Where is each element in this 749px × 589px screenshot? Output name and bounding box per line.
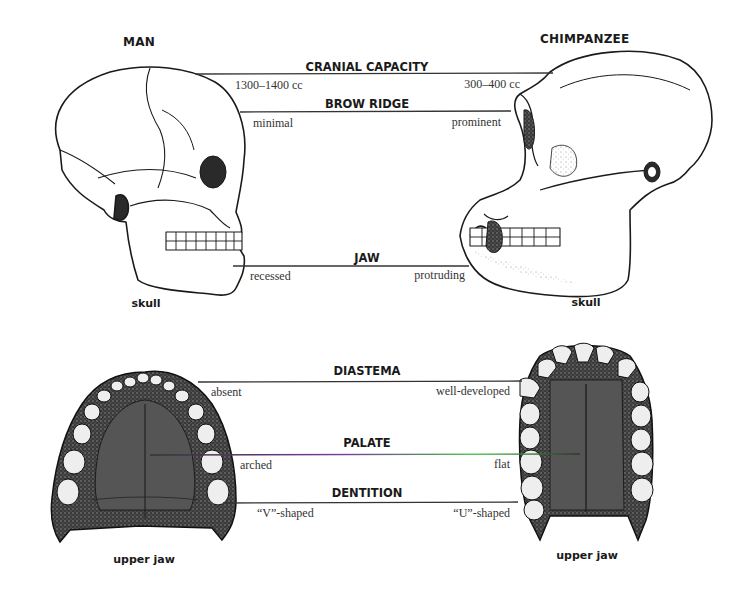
feature-brow-ridge: BROW RIDGE — [325, 97, 409, 111]
human-upper-jaw-drawing — [51, 371, 236, 542]
chimp-jaw-caption: upper jaw — [556, 549, 618, 562]
chimp-diastema-value: well-developed — [436, 384, 510, 399]
man-skull-caption: skull — [131, 297, 160, 310]
feature-palate: PALATE — [343, 436, 390, 450]
feature-dentition: DENTITION — [332, 486, 403, 500]
brow-ridge-line — [240, 111, 511, 112]
chimp-brow-ridge-value: prominent — [452, 115, 501, 130]
man-palate-value: arched — [240, 458, 272, 473]
chimp-dentition-value: “U”-shaped — [453, 506, 510, 521]
man-diastema-value: absent — [211, 385, 242, 400]
man-brow-ridge-value: minimal — [253, 116, 293, 131]
chimpanzee-upper-jaw-drawing — [519, 343, 653, 540]
chimp-palate-value: flat — [494, 457, 510, 472]
dentition-line — [223, 502, 518, 503]
feature-diastema: DIASTEMA — [333, 364, 400, 378]
man-jaw-value: recessed — [250, 269, 291, 284]
human-skull-drawing — [56, 67, 245, 295]
feature-jaw: JAW — [354, 251, 379, 265]
chimp-skull-caption: skull — [571, 296, 600, 309]
chimpanzee-title: CHIMPANZEE — [540, 32, 629, 46]
man-cranial-capacity-value: 1300–1400 cc — [235, 78, 303, 93]
chimp-jaw-value: protruding — [414, 268, 465, 283]
comparison-diagram: MAN CHIMPANZEE CRANIAL CAPACITY 1300–140… — [0, 0, 749, 589]
man-jaw-caption: upper jaw — [113, 553, 175, 566]
illustration-layer — [0, 0, 749, 589]
diastema-line — [198, 381, 522, 382]
feature-cranial-capacity: CRANIAL CAPACITY — [306, 60, 429, 74]
chimp-cranial-capacity-value: 300–400 cc — [464, 77, 520, 92]
man-title: MAN — [123, 35, 155, 49]
man-dentition-value: “V”-shaped — [257, 506, 314, 521]
